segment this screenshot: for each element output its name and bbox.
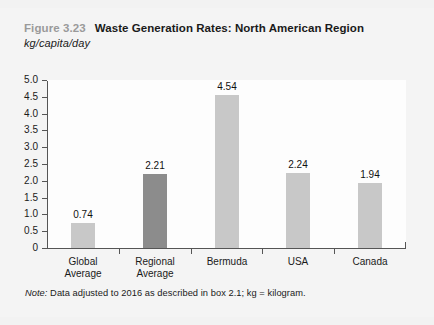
x-tick-label-line: Average <box>47 268 119 280</box>
bar[interactable] <box>71 223 95 248</box>
y-axis-line <box>47 81 48 248</box>
bar-value-label: 2.21 <box>130 160 180 171</box>
x-tick-label: Bermuda <box>191 256 263 268</box>
x-axis-line <box>47 248 406 249</box>
y-tick-label: 5.0 <box>0 75 38 85</box>
x-tick-label: USA <box>262 256 334 268</box>
bar-value-label: 4.54 <box>202 81 252 92</box>
x-tick-label: Canada <box>334 256 406 268</box>
x-tick-label-line: Regional <box>119 256 191 268</box>
y-tick-mark <box>42 198 47 199</box>
y-tick-mark <box>42 147 47 148</box>
y-tick-label: 1.5 <box>0 193 38 203</box>
figure-note: Note: Data adjusted to 2016 as described… <box>25 288 306 298</box>
bar[interactable] <box>215 95 239 248</box>
y-tick-mark <box>42 181 47 182</box>
x-tick-mark <box>334 248 335 254</box>
y-tick-mark <box>42 130 47 131</box>
bar-value-label: 1.94 <box>345 169 395 180</box>
chart-plot: 00.51.01.52.02.53.03.54.04.55.0 0.742.21… <box>0 0 434 325</box>
y-tick-mark <box>42 80 47 81</box>
x-axis-end-tick <box>405 242 406 249</box>
y-tick-mark <box>42 248 47 249</box>
y-tick-label: 4.0 <box>0 109 38 119</box>
x-tick-label-line: USA <box>262 256 334 268</box>
note-label: Note: <box>25 288 47 298</box>
x-tick-label-line: Canada <box>334 256 406 268</box>
y-tick-mark <box>42 114 47 115</box>
bar-value-label: 2.24 <box>273 159 323 170</box>
y-tick-mark <box>42 164 47 165</box>
y-tick-label: 4.5 <box>0 92 38 102</box>
y-tick-label: 2.5 <box>0 159 38 169</box>
x-tick-label: RegionalAverage <box>119 256 191 279</box>
y-tick-mark <box>42 214 47 215</box>
y-tick-label: 0.5 <box>0 226 38 236</box>
x-tick-mark <box>119 248 120 254</box>
bar[interactable] <box>143 174 167 248</box>
bar-value-label: 0.74 <box>58 209 108 220</box>
x-tick-label-line: Average <box>119 268 191 280</box>
x-tick-label-line: Bermuda <box>191 256 263 268</box>
y-tick-label: 1.0 <box>0 209 38 219</box>
y-tick-label: 2.0 <box>0 176 38 186</box>
x-tick-label: GlobalAverage <box>47 256 119 279</box>
x-tick-mark <box>262 248 263 254</box>
bar[interactable] <box>286 173 310 248</box>
x-tick-mark <box>191 248 192 254</box>
note-text: Data adjusted to 2016 as described in bo… <box>47 288 305 298</box>
y-tick-label: 0 <box>0 243 38 253</box>
figure-container: Figure 3.23 Waste Generation Rates: Nort… <box>0 0 434 325</box>
y-tick-mark <box>42 97 47 98</box>
x-tick-label-line: Global <box>47 256 119 268</box>
bar[interactable] <box>358 183 382 248</box>
y-tick-label: 3.5 <box>0 125 38 135</box>
y-tick-label: 3.0 <box>0 142 38 152</box>
y-tick-mark <box>42 231 47 232</box>
